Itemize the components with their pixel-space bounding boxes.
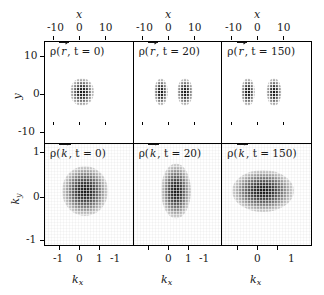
- panel-title-time: , t = 20): [157, 147, 201, 159]
- panel-title-r-t0: ρ(r, t = 0): [50, 45, 104, 57]
- top-tick-label-col3-0: 0: [254, 22, 261, 33]
- bottom-tick-label-col2-0: 0: [165, 253, 172, 264]
- bottom-tick-row1-col2-neg10: [142, 122, 143, 125]
- top-tick-col3-10: [283, 36, 284, 40]
- bottom-tick-label-col3-neg1: -1: [199, 253, 209, 264]
- bottom-tick-col2-0: [168, 246, 169, 250]
- left-axis-title-row2-base: k: [9, 198, 22, 205]
- top-tick-label-col3-neg10: -10: [225, 22, 242, 33]
- panel-title-time: , t = 150): [246, 147, 297, 159]
- bottom-axis-title-col3-base: k: [250, 273, 257, 286]
- bottom-axis-title-col3: kx: [250, 273, 261, 287]
- panel-title-r-t20: ρ(r, t = 20): [139, 45, 200, 57]
- panel-title-time: , t = 0): [67, 45, 104, 57]
- bottom-tick-col2-1: [188, 246, 189, 250]
- left-tick-label-row1-neg10: -10: [18, 126, 35, 137]
- bottom-tick-row1-col3-0: [257, 122, 258, 125]
- bottom-tick-label-col1-1: 1: [96, 253, 103, 264]
- density-blob-left: [154, 79, 168, 106]
- bottom-axis-title-col1: kx: [72, 273, 83, 287]
- panel-title-k-t20: ρ(k, t = 20): [139, 147, 201, 159]
- panel-title-time: , t = 0): [69, 147, 106, 159]
- top-tick-col2-10: [194, 36, 195, 40]
- bottom-tick-label-col2-neg1: -1: [110, 253, 120, 264]
- bottom-tick-label-col1-neg1: -1: [53, 253, 63, 264]
- panel-r-t150: ρ(r, t = 150): [222, 42, 311, 144]
- panel-r-t0: ρ(r, t = 0): [45, 42, 134, 144]
- bottom-tick-row1-col1-neg10: [53, 122, 54, 125]
- left-axis-title-row2-sub: y: [14, 193, 23, 198]
- panel-k-t20: ρ(k, t = 20): [134, 144, 223, 246]
- momentum-blob: [232, 170, 294, 212]
- bottom-tick-label-col1-0: 0: [76, 253, 83, 264]
- bottom-tick-row1-col1-0: [79, 122, 80, 125]
- density-blob-right: [177, 79, 193, 106]
- bottom-tick-label-col2-1: 1: [185, 253, 192, 264]
- top-tick-col1-10: [105, 36, 106, 40]
- bottom-tick-col1-neg1: [59, 246, 60, 250]
- left-tick-label-row1-0: 0: [33, 88, 40, 99]
- bottom-axis-title-col2-base: k: [161, 273, 168, 286]
- top-tick-label-col1-0: 0: [76, 22, 83, 33]
- figure-density-maps: x -10 0 10 x -10 0 10 x -10 0 10 y 10 0 …: [0, 0, 324, 295]
- bottom-tick-col3-0: [257, 246, 258, 250]
- panel-k-t0: ρ(k, t = 0): [45, 144, 134, 246]
- bottom-axis-title-col1-base: k: [72, 273, 79, 286]
- bottom-tick-row1-col1-10: [105, 122, 106, 125]
- left-tick-label-row2-1: 1: [33, 146, 40, 157]
- density-blob-center: [70, 78, 94, 106]
- density-blob-left: [241, 78, 255, 106]
- panel-title-k-t0: ρ(k, t = 0): [50, 147, 106, 159]
- top-tick-label-col2-neg10: -10: [136, 22, 153, 33]
- top-tick-col2-0: [168, 36, 169, 40]
- bottom-tick-col3-neg1: [237, 246, 238, 250]
- panel-k-t150: ρ(k, t = 150): [222, 144, 311, 246]
- bottom-tick-row1-col2-0: [168, 122, 169, 125]
- panel-title-vector-symbol: k: [238, 147, 246, 159]
- panel-title-vector-symbol: k: [60, 147, 68, 159]
- top-tick-col3-neg10: [231, 36, 232, 40]
- panel-title-k-t150: ρ(k, t = 150): [227, 147, 296, 159]
- top-tick-label-col1-10: 10: [99, 22, 112, 33]
- top-tick-col1-neg10: [53, 36, 54, 40]
- top-tick-label-col2-10: 10: [188, 22, 201, 33]
- bottom-axis-title-col3-sub: x: [257, 278, 262, 287]
- bottom-tick-row1-col3-10: [283, 122, 284, 125]
- bottom-axis-title-col2: kx: [161, 273, 172, 287]
- top-tick-label-col2-0: 0: [165, 22, 172, 33]
- top-tick-col2-neg10: [142, 36, 143, 40]
- panel-title-vector-symbol: r: [60, 45, 67, 57]
- top-axis-title-col3: x: [254, 8, 260, 21]
- bottom-tick-row1-col2-10: [194, 122, 195, 125]
- top-tick-label-col1-neg10: -10: [47, 22, 64, 33]
- momentum-blob: [161, 164, 191, 219]
- panel-title-vector-symbol: r: [238, 45, 245, 57]
- bottom-axis-title-col1-sub: x: [79, 278, 84, 287]
- bottom-tick-label-col3-0: 0: [254, 253, 261, 264]
- left-axis-title-row1: y: [11, 93, 24, 99]
- left-tick-label-row1-10: 10: [24, 50, 37, 61]
- bottom-tick-row1-col3-neg10: [231, 122, 232, 125]
- left-tick-label-row2-neg1: -1: [26, 234, 36, 245]
- bottom-tick-col3-1: [277, 246, 278, 250]
- top-tick-col3-0: [257, 36, 258, 40]
- panel-title-vector-symbol: r: [149, 45, 156, 57]
- left-axis-title-row2: ky: [9, 193, 23, 204]
- bottom-tick-col1-1: [99, 246, 100, 250]
- bottom-tick-col1-0: [79, 246, 80, 250]
- panel-title-time: , t = 20): [156, 45, 200, 57]
- panel-title-time: , t = 150): [245, 45, 296, 57]
- panel-r-t20: ρ(r, t = 20): [134, 42, 223, 144]
- bottom-tick-col2-neg1: [148, 246, 149, 250]
- top-tick-col1-0: [79, 36, 80, 40]
- top-axis-title-col2: x: [165, 8, 171, 21]
- bottom-tick-label-col3-1: 1: [288, 253, 295, 264]
- left-tick-label-row2-0: 0: [33, 191, 40, 202]
- panel-title-r-t150: ρ(r, t = 150): [227, 45, 295, 57]
- bottom-axis-title-col2-sub: x: [168, 278, 173, 287]
- momentum-blob: [62, 166, 108, 216]
- top-tick-label-col3-10: 10: [277, 22, 290, 33]
- top-axis-title-col1: x: [76, 8, 82, 21]
- panel-title-vector-symbol: k: [149, 147, 157, 159]
- density-blob-right: [266, 78, 281, 106]
